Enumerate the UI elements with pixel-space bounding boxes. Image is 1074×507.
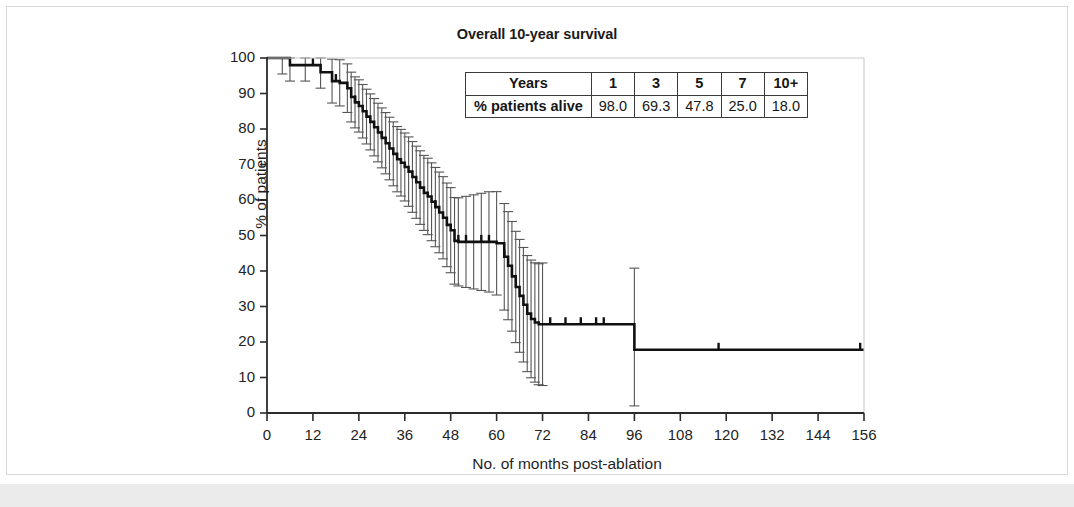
x-tick-label: 132 — [750, 426, 794, 443]
table-header-percent-alive: % patients alive — [466, 95, 592, 118]
y-tick-label: 50 — [209, 226, 255, 243]
y-tick-label: 0 — [209, 403, 255, 420]
x-tick-label: 156 — [842, 426, 886, 443]
table-cell-year: 5 — [678, 73, 721, 96]
survival-summary-table: Years 135710+ % patients alive 98.069.34… — [465, 72, 808, 118]
table-cell-percent: 18.0 — [764, 95, 807, 118]
table-cell-year: 3 — [635, 73, 678, 96]
x-tick-label: 36 — [383, 426, 427, 443]
table-cell-year: 10+ — [764, 73, 807, 96]
y-tick-label: 70 — [209, 155, 255, 172]
table-cell-year: 7 — [721, 73, 764, 96]
y-tick-label: 30 — [209, 297, 255, 314]
x-tick-label: 84 — [566, 426, 610, 443]
y-tick-label: 100 — [209, 48, 255, 65]
x-tick-label: 144 — [796, 426, 840, 443]
x-tick-label: 12 — [291, 426, 335, 443]
x-tick-label: 48 — [429, 426, 473, 443]
table-row-percent-alive: % patients alive 98.069.347.825.018.0 — [466, 95, 808, 118]
figure-page: Overall 10-year survival 010203040506070… — [0, 0, 1074, 507]
x-axis-title: No. of months post-ablation — [267, 455, 867, 473]
table-cell-percent: 69.3 — [635, 95, 678, 118]
y-tick-label: 40 — [209, 261, 255, 278]
x-tick-label: 96 — [612, 426, 656, 443]
table-row-years: Years 135710+ — [466, 73, 808, 96]
x-tick-label: 120 — [704, 426, 748, 443]
table-cell-year: 1 — [591, 73, 634, 96]
y-tick-label: 20 — [209, 332, 255, 349]
y-tick-label: 90 — [209, 84, 255, 101]
table-cell-percent: 25.0 — [721, 95, 764, 118]
table-cell-percent: 98.0 — [591, 95, 634, 118]
y-tick-label: 80 — [209, 119, 255, 136]
y-tick-label: 60 — [209, 190, 255, 207]
y-tick-label: 10 — [209, 368, 255, 385]
table-header-years: Years — [466, 73, 592, 96]
x-tick-label: 72 — [521, 426, 565, 443]
x-tick-label: 60 — [475, 426, 519, 443]
table-cell-percent: 47.8 — [678, 95, 721, 118]
x-tick-label: 0 — [245, 426, 289, 443]
x-tick-label: 24 — [337, 426, 381, 443]
x-tick-label: 108 — [658, 426, 702, 443]
y-axis-title: % of patients — [252, 119, 270, 249]
